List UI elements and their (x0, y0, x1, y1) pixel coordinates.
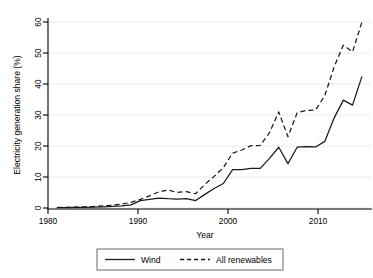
x-tick-label: 2000 (219, 216, 238, 226)
y-tick-label: 50 (33, 48, 43, 58)
legend-label-all-renewables: All renewables (216, 255, 272, 265)
x-tick-label: 1980 (39, 216, 58, 226)
x-tick-labels: 1980 1990 2000 2010 (39, 216, 328, 226)
legend-label-wind: Wind (141, 255, 161, 265)
chart-container: 60 50 40 30 20 10 0 Electricity generati… (0, 0, 373, 278)
series-line-wind (57, 77, 362, 208)
x-tick-marks (48, 209, 318, 214)
y-tick-label: 0 (33, 205, 43, 210)
y-tick-labels: 60 50 40 30 20 10 0 (33, 17, 43, 210)
y-tick-label: 10 (33, 172, 43, 182)
gridlines (48, 22, 371, 208)
chart-legend: Wind All renewables (97, 249, 283, 270)
x-tick-label: 1990 (129, 216, 148, 226)
y-tick-label: 40 (33, 79, 43, 89)
line-chart: 60 50 40 30 20 10 0 Electricity generati… (0, 0, 373, 278)
y-axis-title: Electricity generation share (%) (12, 55, 22, 175)
y-tick-marks (43, 22, 48, 208)
x-axis-title: Year (196, 230, 214, 240)
y-tick-label: 60 (33, 17, 43, 27)
y-tick-label: 20 (33, 141, 43, 151)
y-tick-label: 30 (33, 110, 43, 120)
x-tick-label: 2010 (309, 216, 328, 226)
